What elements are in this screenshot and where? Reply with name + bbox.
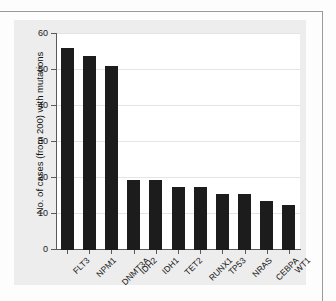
x-tick-mark [267, 250, 268, 254]
bar [83, 56, 96, 250]
y-axis-title: No. of cases (from 200) with mutations [35, 33, 45, 233]
chart-figure-panel: 0102030405060 FLT3NPM1DNMT3AIDH2IDH1TET2… [14, 20, 306, 285]
x-tick-mark [67, 250, 68, 254]
x-tick-label: TET2 [183, 256, 204, 277]
x-tick-label: FLT3 [72, 256, 92, 276]
bar [238, 194, 251, 250]
x-tick-mark [134, 250, 135, 254]
x-tick-mark [178, 250, 179, 254]
bar [149, 180, 162, 250]
x-tick-label: IDH1 [160, 256, 180, 276]
x-tick-label: NPM1 [95, 256, 118, 279]
bar [61, 48, 74, 250]
x-tick-mark [89, 250, 90, 254]
page-right-rule [322, 11, 323, 301]
x-tick-mark [200, 250, 201, 254]
x-tick-label: NRAS [250, 256, 273, 279]
x-tick-mark [289, 250, 290, 254]
bar [105, 66, 118, 250]
x-tick-mark [156, 250, 157, 254]
page-top-rule [0, 11, 322, 12]
bar [216, 194, 229, 250]
x-tick-mark [222, 250, 223, 254]
bar [127, 180, 140, 250]
x-tick-mark [111, 250, 112, 254]
bars-group [56, 33, 301, 250]
bar [260, 201, 273, 250]
bar [282, 205, 295, 250]
y-tick-label: 0 [43, 245, 48, 254]
x-tick-mark [245, 250, 246, 254]
bar [172, 187, 185, 250]
bar [194, 187, 207, 250]
